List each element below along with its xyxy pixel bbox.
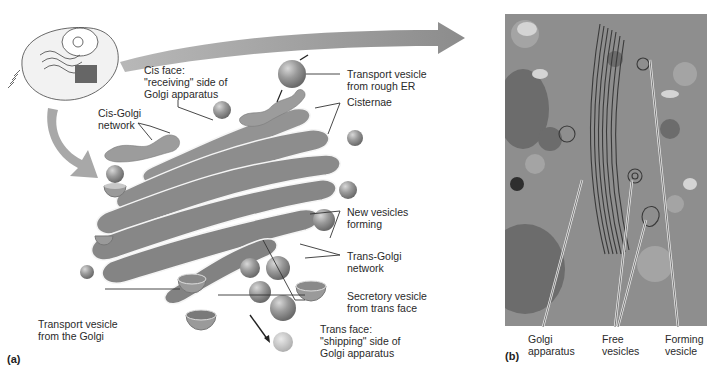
- label-trans-face: Trans face: "shipping" side of Golgi app…: [320, 323, 400, 359]
- panel-a-tag: (a): [7, 353, 20, 365]
- label-trans-golgi-network: Trans-Golgi network: [347, 250, 401, 274]
- label-new-vesicles: New vesicles forming: [347, 206, 408, 230]
- cell-thumbnail: [8, 27, 118, 100]
- label-transport-vesicle-er: Transport vesicle from rough ER: [347, 68, 427, 92]
- label-cisternae: Cisternae: [347, 96, 392, 108]
- label-cis-face: Cis face: "receiving" side of Golgi appa…: [144, 64, 227, 100]
- label-forming-vesicle: Forming vesicle: [665, 333, 704, 357]
- panel-b-tag: (b): [505, 350, 519, 362]
- label-cis-golgi-network: Cis-Golgi network: [98, 107, 141, 131]
- label-golgi-apparatus: Golgi apparatus: [528, 333, 575, 357]
- cisternae-stack: [92, 109, 340, 304]
- label-secretory-vesicle: Secretory vesicle from trans face: [347, 290, 427, 314]
- transport-vesicle-er: [278, 60, 306, 88]
- label-free-vesicles: Free vesicles: [602, 333, 639, 357]
- big-arrow-down: [47, 108, 98, 178]
- electron-micrograph: [505, 14, 707, 326]
- label-transport-vesicle-golgi: Transport vesicle from the Golgi: [38, 318, 118, 342]
